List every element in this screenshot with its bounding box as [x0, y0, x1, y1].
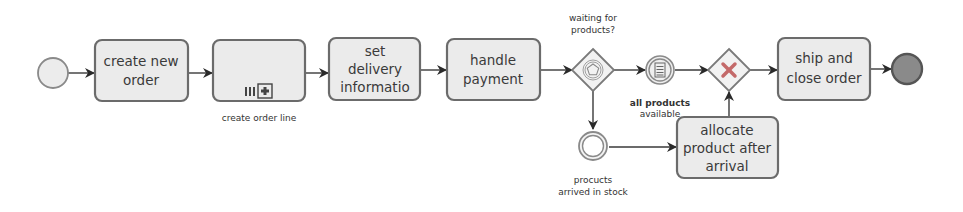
task-label: close order — [786, 70, 862, 86]
task-label: ship and — [795, 50, 853, 66]
task-label: allocate — [700, 122, 753, 138]
bpmn-diagram: create new order create order line set d… — [0, 0, 963, 212]
task-label: order — [123, 72, 159, 88]
task-label: informatio — [340, 79, 409, 95]
task-label: set — [365, 43, 386, 59]
task-label: arrival — [706, 158, 749, 174]
start-event[interactable] — [38, 58, 68, 88]
intermediate-event-all-products-available[interactable]: all products available — [630, 56, 690, 119]
exclusive-gateway[interactable] — [708, 49, 750, 91]
intermediate-event-products-arrived[interactable]: procucts arrived in stock — [558, 132, 628, 197]
task-label: product after — [683, 140, 772, 156]
task-label: handle — [470, 52, 516, 68]
event-label: procucts — [574, 175, 613, 185]
event-label: available — [640, 109, 681, 119]
task-set-delivery-information[interactable]: set delivery informatio — [329, 38, 420, 100]
task-handle-payment[interactable]: handle payment — [447, 39, 540, 100]
task-create-new-order[interactable]: create new order — [95, 40, 188, 101]
event-based-gateway[interactable]: waiting for products? — [569, 13, 617, 91]
task-ship-and-close-order[interactable]: ship and close order — [778, 38, 870, 100]
subprocess-label: create order line — [222, 113, 297, 123]
event-label: arrived in stock — [558, 187, 628, 197]
gateway-label: products? — [571, 25, 615, 35]
event-label: all products — [630, 98, 690, 108]
end-event[interactable] — [892, 54, 922, 84]
task-label: create new — [103, 53, 178, 69]
task-label: payment — [463, 71, 523, 87]
task-label: delivery — [348, 61, 402, 77]
task-allocate-product-after-arrival[interactable]: allocate product after arrival — [677, 117, 778, 178]
gateway-label: waiting for — [569, 13, 617, 23]
subprocess-create-order-line[interactable]: create order line — [213, 40, 305, 123]
multi-instance-marker-icon — [245, 87, 255, 96]
